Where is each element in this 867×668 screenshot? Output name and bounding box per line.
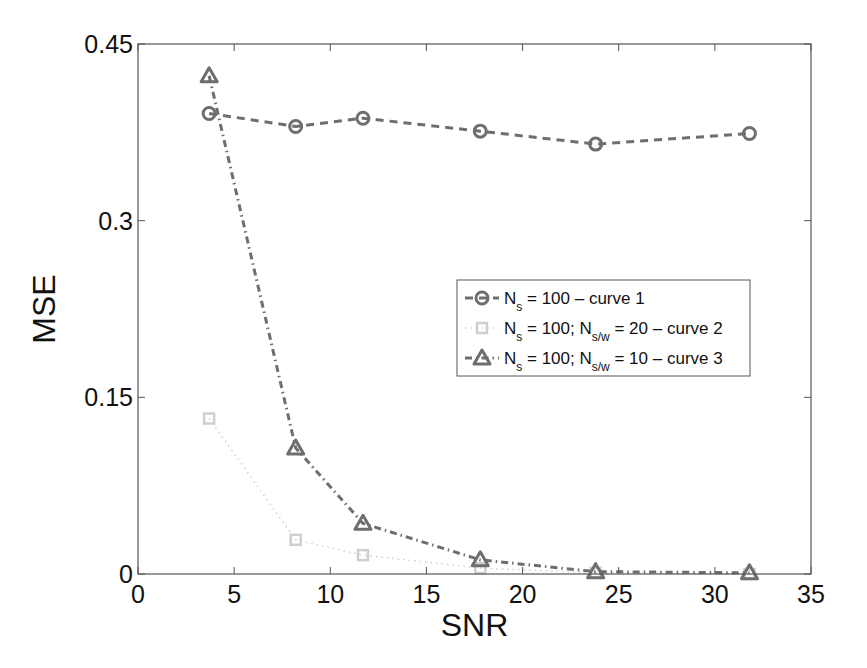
y-tick-label: 0.3 xyxy=(98,207,133,235)
y-tick-label: 0.45 xyxy=(84,30,133,58)
x-tick-label: 5 xyxy=(227,580,241,608)
mse-vs-snr-chart: 0510152025303500.150.30.45SNRMSE Ns = 10… xyxy=(0,0,867,668)
series-curve-1 xyxy=(203,107,755,150)
x-tick-label: 25 xyxy=(605,580,633,608)
x-axis-label: SNR xyxy=(441,607,509,643)
x-tick-label: 30 xyxy=(701,580,729,608)
x-tick-label: 20 xyxy=(509,580,537,608)
legend: Ns = 100 – curve 1Ns = 100; Ns/w = 20 – … xyxy=(457,280,750,376)
y-axis-label: MSE xyxy=(26,274,62,343)
x-tick-label: 35 xyxy=(797,580,825,608)
square-marker xyxy=(358,550,368,560)
x-tick-label: 10 xyxy=(316,580,344,608)
y-tick-label: 0 xyxy=(119,560,133,588)
y-tick-label: 0.15 xyxy=(84,383,133,411)
x-tick-label: 0 xyxy=(131,580,145,608)
series-line xyxy=(209,419,749,574)
x-tick-label: 15 xyxy=(413,580,441,608)
